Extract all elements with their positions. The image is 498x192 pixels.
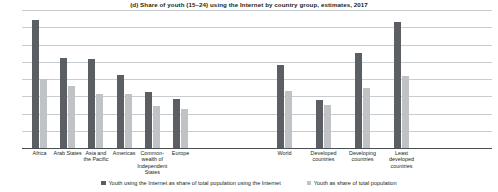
- bar: [32, 20, 39, 148]
- gridline: [22, 10, 492, 11]
- gridline: [22, 45, 492, 46]
- x-axis-line: [22, 148, 492, 149]
- bar: [40, 79, 47, 148]
- bar: [117, 75, 124, 148]
- bar: [355, 53, 362, 148]
- bar: [316, 100, 323, 148]
- bar: [277, 65, 284, 148]
- legend-label: Youth as share of total population: [314, 180, 397, 186]
- chart-title: (d) Share of youth (15–24) using the Int…: [0, 1, 498, 8]
- bar: [363, 88, 370, 148]
- gridline: [22, 27, 492, 28]
- bar: [394, 22, 401, 148]
- bar: [60, 58, 67, 148]
- bar: [96, 94, 103, 148]
- legend-item: Youth using the Internet as share of tot…: [101, 180, 280, 186]
- x-axis-category-label: Leastdevelopedcountries: [375, 150, 429, 169]
- bar: [181, 109, 188, 148]
- legend-swatch-dark: [101, 181, 106, 186]
- bar: [145, 92, 152, 148]
- bar: [324, 105, 331, 148]
- bar: [125, 94, 132, 148]
- bar: [173, 99, 180, 148]
- legend-item: Youth as share of total population: [307, 180, 397, 186]
- x-axis-category-label: Europe: [154, 150, 208, 156]
- chart-container: (d) Share of youth (15–24) using the Int…: [0, 0, 498, 192]
- legend-swatch-light: [307, 181, 312, 186]
- bar: [68, 86, 75, 148]
- bar: [285, 91, 292, 148]
- legend-label: Youth using the Internet as share of tot…: [108, 180, 280, 186]
- bar: [88, 59, 95, 148]
- bar: [402, 76, 409, 148]
- chart-legend: Youth using the Internet as share of tot…: [0, 180, 498, 186]
- plot-area: 0510152025303540: [22, 10, 492, 148]
- bar: [153, 106, 160, 148]
